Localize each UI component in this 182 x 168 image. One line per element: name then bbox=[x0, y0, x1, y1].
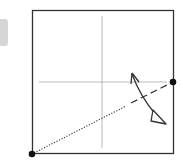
point-right-mid bbox=[170, 79, 177, 86]
fold-diagram bbox=[0, 0, 182, 168]
point-bottom-left bbox=[29, 151, 36, 158]
